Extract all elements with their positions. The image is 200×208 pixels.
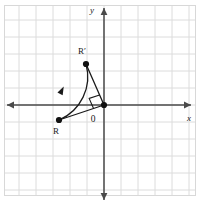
- point-r-label: R: [53, 126, 59, 136]
- figure-background: [0, 0, 200, 208]
- point-r-prime-dot: [83, 61, 89, 67]
- x-axis-label: x: [186, 113, 191, 123]
- coordinate-plane-figure: x y 0 R R′: [0, 0, 200, 208]
- figure-canvas: x y 0 R R′: [0, 0, 200, 208]
- point-r-dot: [56, 117, 62, 123]
- y-axis-label: y: [89, 5, 94, 15]
- origin-label: 0: [91, 114, 96, 124]
- origin-point-dot: [101, 102, 107, 108]
- point-r-prime-label: R′: [78, 46, 86, 56]
